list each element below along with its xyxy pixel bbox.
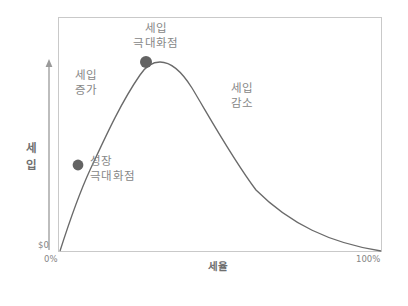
growth-max-label-line2: 극대화점: [90, 169, 168, 184]
x-axis-tick-zero: 0%: [44, 254, 58, 264]
growth-max-label: 성장 극대화점: [90, 154, 168, 183]
x-axis-title: 세율: [178, 258, 258, 273]
revenue-increase-label: 세입 증가: [58, 68, 114, 97]
y-axis-title-char2: 입: [16, 157, 46, 174]
revenue-increase-label-line1: 세입: [58, 68, 114, 83]
y-axis-title-char1: 세: [16, 140, 46, 157]
revenue-increase-label-line2: 증가: [58, 83, 114, 98]
revenue-decrease-label: 세입 감소: [214, 81, 270, 110]
y-axis-tick-zero: $0: [38, 240, 49, 250]
growth-max-label-line1: 성장: [90, 154, 168, 169]
revenue-max-label-line1: 세입: [108, 21, 204, 36]
revenue-max-label-line2: 극대화점: [108, 36, 204, 51]
revenue-decrease-label-line2: 감소: [214, 96, 270, 111]
revenue-max-label: 세입 극대화점: [108, 21, 204, 50]
x-axis-tick-hundred: 100%: [356, 254, 380, 264]
plot-frame: [58, 17, 382, 252]
laffer-curve-figure: 세입 극대화점 세입 증가 세입 감소 성장 극대화점 세 입 세율 $0 0%…: [0, 0, 408, 306]
revenue-decrease-label-line1: 세입: [214, 81, 270, 96]
y-axis-title: 세 입: [16, 140, 46, 173]
